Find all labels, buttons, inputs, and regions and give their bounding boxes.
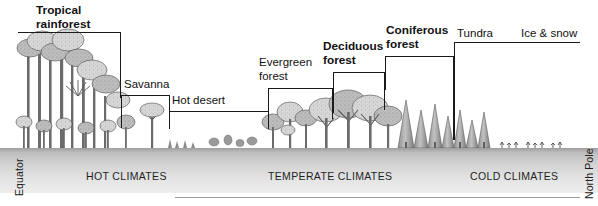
biome-label-coniferous-forest: Coniferousforest bbox=[386, 24, 448, 51]
hot-desert-cluster bbox=[209, 135, 257, 147]
bracket-left-drop-hot-desert bbox=[169, 111, 170, 129]
bracket-left-drop-evergreen-forest bbox=[268, 88, 269, 126]
rainforest-cluster bbox=[16, 29, 135, 148]
biome-label-ice-and-snow: Ice & snow bbox=[521, 27, 577, 41]
deciduous-forest-cluster bbox=[309, 90, 402, 148]
biome-label-line1: Evergreen bbox=[259, 56, 312, 70]
equator-label: Equator bbox=[13, 159, 25, 196]
biome-label-line1: Hot desert bbox=[172, 94, 225, 108]
biome-label-line2: forest bbox=[323, 54, 383, 68]
biome-label-tropical-rainforest: Tropicalrainforest bbox=[36, 4, 90, 31]
bracket-rule-tropical-rainforest bbox=[18, 32, 121, 33]
biome-label-line2: rainforest bbox=[36, 18, 90, 32]
bracket-left-drop-coniferous-forest bbox=[385, 56, 386, 90]
bracket-left-drop-tundra bbox=[454, 42, 455, 140]
biome-label-line1: Savanna bbox=[124, 78, 169, 92]
climate-zone-label-temperate: TEMPERATE CLIMATES bbox=[268, 170, 392, 182]
bracket-left-drop-deciduous-forest bbox=[333, 72, 334, 113]
bracket-rule-savanna bbox=[121, 95, 170, 96]
biome-label-deciduous-forest: Deciduousforest bbox=[323, 40, 383, 67]
vegetation-climate-cross-section-figure: Equator North Pole HOT CLIMATESTEMPERATE… bbox=[0, 0, 598, 206]
biome-label-tundra: Tundra bbox=[457, 27, 493, 41]
biome-label-line1: Tundra bbox=[457, 27, 493, 41]
biome-label-line2: forest bbox=[259, 70, 312, 84]
bracket-rule-hot-desert bbox=[169, 111, 269, 112]
bracket-right-drop-tropical-rainforest bbox=[120, 32, 121, 98]
bracket-rule-coniferous-forest bbox=[385, 56, 454, 57]
bracket-rule-evergreen-forest bbox=[268, 88, 333, 89]
coniferous-forest-cluster bbox=[398, 100, 490, 148]
climate-zone-label-hot: HOT CLIMATES bbox=[86, 170, 167, 182]
biome-label-line1: Deciduous bbox=[323, 40, 383, 54]
biome-label-line1: Coniferous bbox=[386, 24, 448, 38]
biome-label-line2: forest bbox=[386, 38, 448, 52]
biome-label-hot-desert: Hot desert bbox=[172, 94, 225, 108]
biome-label-savanna: Savanna bbox=[124, 78, 169, 92]
biome-label-line1: Ice & snow bbox=[521, 27, 577, 41]
bracket-rule-tundra bbox=[454, 42, 580, 43]
savanna-cluster bbox=[140, 103, 195, 148]
evergreen-forest-cluster bbox=[262, 102, 317, 148]
north-pole-label: North Pole bbox=[583, 148, 595, 199]
figure-baseline-rule bbox=[175, 197, 580, 198]
bracket-rule-deciduous-forest bbox=[333, 72, 385, 73]
climate-zone-label-cold: COLD CLIMATES bbox=[470, 170, 558, 182]
bracket-left-drop-savanna bbox=[121, 95, 122, 128]
biome-label-line1: Tropical bbox=[36, 4, 90, 18]
biome-label-evergreen-forest: Evergreenforest bbox=[259, 56, 312, 83]
